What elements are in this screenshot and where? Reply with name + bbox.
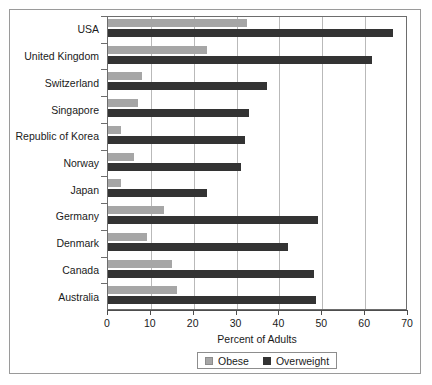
plot-inner (108, 17, 406, 309)
legend-label: Overweight (276, 355, 329, 367)
y-axis-label: Republic of Korea (0, 130, 99, 142)
bar-overweight (108, 109, 249, 117)
chart-row (108, 231, 406, 258)
legend-label: Obese (218, 355, 249, 367)
x-axis-tick-label: 40 (263, 317, 293, 329)
legend-entry: Overweight (263, 355, 329, 367)
chart-row (108, 204, 406, 231)
legend-swatch-icon (205, 357, 213, 365)
x-axis-tick (321, 310, 322, 315)
x-axis-tick (364, 310, 365, 315)
chart-figure: USAUnited KingdomSwitzerlandSingaporeRep… (0, 0, 432, 385)
bar-overweight (108, 189, 207, 197)
chart-row (108, 44, 406, 71)
bar-overweight (108, 270, 314, 278)
bar-obese (108, 46, 207, 54)
x-axis-title: Percent of Adults (107, 333, 407, 345)
chart-row (108, 151, 406, 178)
y-axis-label: USA (0, 23, 99, 35)
bar-obese (108, 99, 138, 107)
chart-legend: ObeseOverweight (197, 352, 337, 369)
bar-obese (108, 153, 134, 161)
y-axis-label: Germany (0, 210, 99, 222)
y-axis-label: Japan (0, 184, 99, 196)
y-axis-label: Canada (0, 264, 99, 276)
bar-obese (108, 179, 121, 187)
x-axis-tick-label: 70 (392, 317, 422, 329)
bar-overweight (108, 56, 372, 64)
bar-obese (108, 19, 247, 27)
bar-overweight (108, 216, 318, 224)
bar-overweight (108, 136, 245, 144)
chart-row (108, 97, 406, 124)
bar-obese (108, 206, 164, 214)
bar-obese (108, 126, 121, 134)
legend-swatch-icon (263, 357, 271, 365)
y-axis-label: Denmark (0, 237, 99, 249)
bar-overweight (108, 29, 393, 37)
y-axis-label: Singapore (0, 104, 99, 116)
y-axis-label: Norway (0, 157, 99, 169)
bar-overweight (108, 163, 241, 171)
chart-row (108, 258, 406, 285)
x-axis-line (107, 310, 408, 311)
bar-obese (108, 72, 142, 80)
x-axis-tick (150, 310, 151, 315)
x-axis-tick (193, 310, 194, 315)
bar-obese (108, 260, 172, 268)
x-axis-tick (107, 310, 108, 315)
legend-entry: Obese (205, 355, 249, 367)
bar-overweight (108, 296, 316, 304)
x-axis-tick-label: 0 (92, 317, 122, 329)
x-axis-tick-label: 30 (221, 317, 251, 329)
chart-row (108, 284, 406, 311)
bar-overweight (108, 243, 288, 251)
y-axis-label: Switzerland (0, 77, 99, 89)
x-axis-tick-label: 20 (178, 317, 208, 329)
bar-overweight (108, 82, 267, 90)
bar-obese (108, 286, 177, 294)
y-axis-label: Australia (0, 291, 99, 303)
chart-row (108, 177, 406, 204)
x-axis-tick-label: 10 (135, 317, 165, 329)
y-axis-label: United Kingdom (0, 50, 99, 62)
x-axis-tick-label: 50 (306, 317, 336, 329)
chart-row (108, 70, 406, 97)
x-axis-tick-label: 60 (349, 317, 379, 329)
chart-row (108, 124, 406, 151)
chart-row (108, 17, 406, 44)
x-axis-tick (278, 310, 279, 315)
x-axis-tick (236, 310, 237, 315)
x-axis-tick (407, 310, 408, 315)
bar-obese (108, 233, 147, 241)
plot-area (107, 16, 407, 310)
